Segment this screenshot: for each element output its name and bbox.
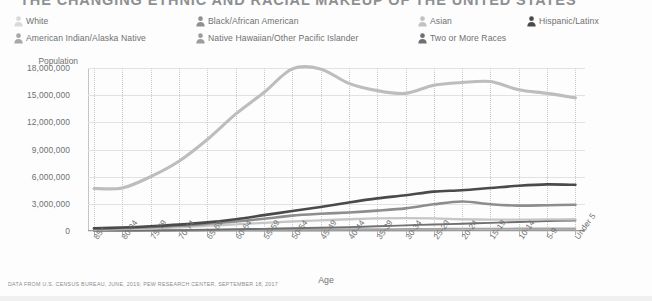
- source-citation: DATA FROM U.S. CENSUS BUREAU, JUNE, 2019…: [8, 281, 278, 287]
- legend-item-label: Asian: [430, 17, 452, 26]
- legend-column-4: Hispanic/Latinx: [527, 14, 599, 31]
- page-title: THE CHANGING ETHNIC AND RACIAL MAKEUP OF…: [20, 0, 577, 8]
- legend-item[interactable]: Asian: [418, 14, 506, 29]
- person-icon: [196, 33, 205, 44]
- legend-column-1: WhiteAmerican Indian/Alaska Native: [14, 14, 146, 48]
- legend-column-3: AsianTwo or More Races: [418, 14, 506, 48]
- y-axis-tick-label: 9,000,000: [0, 145, 70, 155]
- person-icon: [14, 33, 23, 44]
- series-lines: [88, 68, 585, 231]
- person-icon: [14, 16, 23, 27]
- legend-column-2: Black/African AmericanNative Hawaiian/Ot…: [196, 14, 358, 48]
- y-axis-tick-label: 0: [0, 226, 70, 236]
- legend-item-label: Two or More Races: [430, 34, 506, 43]
- person-icon: [418, 33, 427, 44]
- legend-item[interactable]: Black/African American: [196, 14, 358, 29]
- y-axis-tick-label: 3,000,000: [0, 199, 70, 209]
- person-icon: [196, 16, 205, 27]
- legend-item[interactable]: White: [14, 14, 146, 29]
- legend-item-label: Native Hawaiian/Other Pacific Islander: [208, 34, 358, 43]
- y-axis-tick-label: 18,000,000: [0, 63, 70, 73]
- y-axis-tick-label: 12,000,000: [0, 117, 70, 127]
- y-axis-tick-label: 15,000,000: [0, 90, 70, 100]
- plot-canvas: [88, 68, 585, 231]
- series-line: [94, 67, 575, 189]
- legend-item[interactable]: Native Hawaiian/Other Pacific Islander: [196, 31, 358, 46]
- legend-item[interactable]: Hispanic/Latinx: [527, 14, 599, 29]
- legend-item-label: White: [26, 17, 48, 26]
- bottom-bar: [0, 296, 652, 301]
- x-axis-tick-labels: 85+80-8475-7970-7465-6960-6455-5950-5445…: [0, 236, 652, 278]
- y-axis-tick-labels: 18,000,00015,000,00012,000,0009,000,0006…: [0, 56, 70, 256]
- y-axis-tick-label: 6,000,000: [0, 172, 70, 182]
- legend-item-label: Black/African American: [208, 17, 299, 26]
- legend-item[interactable]: Two or More Races: [418, 31, 506, 46]
- chart-title-strip: THE CHANGING ETHNIC AND RACIAL MAKEUP OF…: [0, 0, 652, 9]
- person-icon: [418, 16, 427, 27]
- legend-item-label: American Indian/Alaska Native: [26, 34, 146, 43]
- legend-item[interactable]: American Indian/Alaska Native: [14, 31, 146, 46]
- legend-item-label: Hispanic/Latinx: [539, 17, 599, 26]
- chart-legend: WhiteAmerican Indian/Alaska NativeBlack/…: [0, 14, 652, 48]
- person-icon: [527, 16, 536, 27]
